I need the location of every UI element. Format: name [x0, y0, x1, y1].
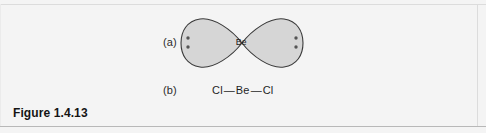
orbital-center-atom-label: Be	[231, 36, 251, 49]
lone-pair-dot-right-lower	[294, 45, 297, 48]
orbital-lobe-right	[242, 19, 303, 67]
figure-panel: (a) Be (b) Cl—Be—Cl Figure 1.4.13	[0, 0, 486, 133]
figure-caption: Figure 1.4.13	[13, 106, 88, 120]
row-label-a: (a)	[163, 36, 177, 48]
lewis-formula: Cl—Be—Cl	[212, 84, 273, 96]
lone-pair-dot-right-upper	[294, 36, 297, 39]
panel-right-border	[477, 4, 478, 127]
panel-left-border	[0, 4, 1, 127]
lone-pair-dot-left-upper	[186, 36, 189, 39]
panel-top-border	[0, 4, 486, 5]
formula-atom-center: Be	[236, 84, 250, 96]
formula-bond-left: —	[223, 84, 236, 96]
row-label-b: (b)	[163, 84, 177, 96]
formula-atom-left: Cl	[212, 84, 223, 96]
panel-bottom-border	[0, 126, 486, 127]
formula-bond-right: —	[250, 84, 263, 96]
formula-atom-right: Cl	[263, 84, 274, 96]
lone-pair-dot-left-lower	[186, 45, 189, 48]
